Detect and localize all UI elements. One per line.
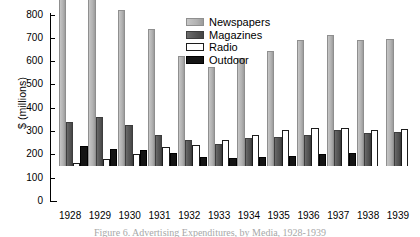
bar-newspapers: [178, 56, 185, 166]
advertising-expenditure-bar-chart: $ (millions) 0100200300400500600700800 1…: [0, 0, 420, 237]
x-tick-label: 1939: [378, 211, 418, 221]
bar-outdoor: [229, 158, 236, 166]
legend-label: Radio: [209, 41, 238, 53]
bar-outdoor: [289, 156, 296, 167]
legend-swatch-newspapers-icon: [186, 18, 204, 26]
bar-radio: [222, 140, 229, 166]
bar-radio: [401, 129, 408, 166]
bar-newspapers: [208, 67, 215, 166]
bar-newspapers: [148, 29, 155, 167]
bar-radio: [311, 128, 318, 167]
bar-radio: [341, 128, 348, 167]
bar-newspapers: [237, 58, 244, 166]
figure-caption: Figure 6. Advertising Expenditures, by M…: [0, 227, 420, 237]
bar-magazines: [394, 132, 401, 166]
bar-magazines: [96, 117, 103, 166]
bar-radio: [371, 130, 378, 166]
legend-label: Newspapers: [209, 16, 270, 28]
bar-magazines: [245, 138, 252, 166]
legend-swatch-outdoor-icon: [186, 56, 204, 64]
bar-magazines: [125, 125, 132, 166]
bar-newspapers: [267, 51, 274, 166]
legend-swatch-magazines-icon: [186, 31, 204, 39]
bar-newspapers: [386, 39, 393, 166]
bar-magazines: [215, 144, 222, 166]
bar-radio: [133, 154, 140, 166]
bar-outdoor: [259, 157, 266, 166]
legend-swatch-radio-icon: [186, 43, 204, 51]
bar-newspapers: [118, 10, 125, 166]
bar-magazines: [155, 135, 162, 167]
bar-radio: [192, 145, 199, 166]
bar-outdoor: [80, 146, 87, 166]
bar-magazines: [304, 135, 311, 167]
bar-magazines: [364, 133, 371, 166]
bar-outdoor: [319, 154, 326, 166]
bar-magazines: [274, 137, 281, 166]
bar-outdoor: [110, 149, 117, 167]
bar-radio: [103, 159, 110, 166]
bar-newspapers: [357, 40, 364, 166]
bar-magazines: [334, 130, 341, 166]
bar-radio: [73, 163, 80, 167]
bar-outdoor: [200, 157, 207, 166]
bar-outdoor: [170, 153, 177, 166]
bar-radio: [162, 147, 169, 166]
bar-outdoor: [349, 153, 356, 166]
bar-outdoor: [140, 150, 147, 166]
legend-label: Outdoor: [209, 54, 249, 66]
bar-magazines: [66, 122, 73, 166]
bar-newspapers: [59, 0, 66, 166]
legend-label: Magazines: [209, 29, 262, 41]
bar-newspapers: [88, 0, 95, 166]
bar-magazines: [185, 140, 192, 166]
bar-newspapers: [297, 40, 304, 166]
bar-newspapers: [327, 35, 334, 166]
bar-radio: [282, 130, 289, 166]
bar-radio: [252, 135, 259, 167]
